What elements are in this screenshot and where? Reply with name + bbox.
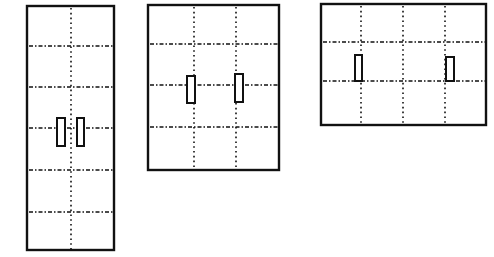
opening-rect <box>57 118 65 146</box>
opening-rect <box>355 55 362 81</box>
grid-panels-diagram <box>0 0 494 257</box>
panel-3 <box>321 4 486 125</box>
opening-rect <box>235 74 243 102</box>
panel-2 <box>148 5 279 170</box>
opening-rect <box>187 76 195 103</box>
panel-1 <box>27 6 114 250</box>
opening-rect <box>446 57 454 81</box>
panel-border <box>148 5 279 170</box>
diagram-figure <box>0 0 494 257</box>
opening-rect <box>77 118 84 146</box>
